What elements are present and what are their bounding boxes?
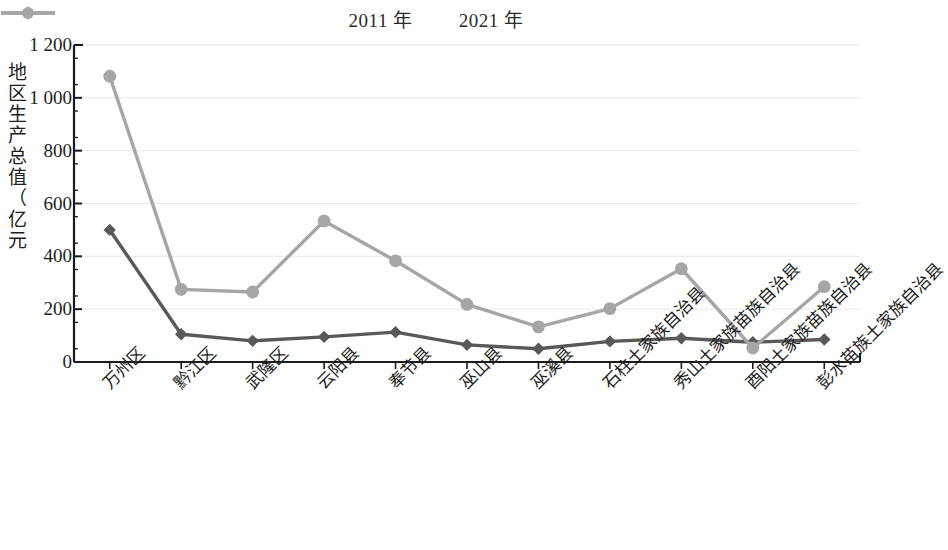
data-point-marker — [746, 342, 759, 355]
data-point-marker — [246, 286, 259, 299]
data-point-marker — [675, 262, 688, 275]
data-point-marker — [604, 302, 617, 315]
data-point-marker — [175, 283, 188, 296]
data-point-marker — [818, 333, 830, 345]
data-point-marker — [461, 339, 473, 351]
data-point-marker — [604, 335, 616, 347]
data-point-marker — [675, 332, 687, 344]
data-point-marker — [389, 254, 402, 267]
data-point-marker — [103, 70, 116, 83]
data-point-marker — [818, 280, 831, 293]
data-point-marker — [461, 298, 474, 311]
data-point-marker — [318, 215, 331, 228]
data-point-marker — [318, 331, 330, 343]
data-point-marker — [389, 326, 401, 338]
data-point-marker — [532, 343, 544, 355]
data-point-marker — [246, 335, 258, 347]
data-point-marker — [532, 320, 545, 333]
